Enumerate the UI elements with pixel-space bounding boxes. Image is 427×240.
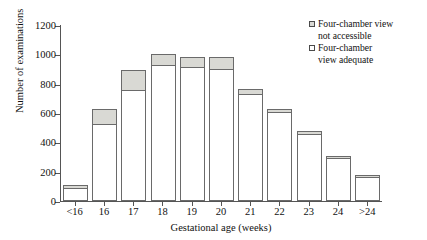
- y-axis-title: Number of examinations: [14, 9, 25, 113]
- legend-label: Four-chamber view not accessible: [318, 18, 393, 41]
- stacked-bar[interactable]: [63, 185, 88, 201]
- stacked-bar[interactable]: [238, 89, 263, 201]
- bar-segment-adequate: [326, 158, 351, 201]
- bar-segment-adequate: [209, 69, 234, 201]
- chart-legend: Four-chamber view not accessibleFour-cha…: [309, 18, 427, 66]
- y-tick-label: 200: [40, 167, 56, 178]
- y-tick-label: 1200: [35, 21, 56, 32]
- bar-segment-adequate: [297, 134, 322, 201]
- bar-segment-not-accessible: [92, 109, 117, 124]
- y-tick-label: 800: [40, 79, 56, 90]
- x-tick-label: 20: [216, 207, 227, 218]
- x-tick-label: 19: [186, 207, 197, 218]
- bar-segment-not-accessible: [180, 57, 205, 67]
- bar-segment-adequate: [92, 124, 117, 201]
- bar-slot: [61, 25, 90, 201]
- bar-slot: [265, 25, 294, 201]
- x-axis-title: Gestational age (weeks): [60, 222, 382, 233]
- bar-slot: [178, 25, 207, 201]
- x-tick-label: <16: [66, 207, 82, 218]
- bar-segment-not-accessible: [151, 54, 176, 66]
- x-tick-label: 16: [99, 207, 110, 218]
- bar-slot: [90, 25, 119, 201]
- bar-segment-not-accessible: [121, 70, 146, 89]
- stacked-bar[interactable]: [355, 175, 380, 201]
- bar-segment-adequate: [63, 188, 88, 201]
- bar-slot: [236, 25, 265, 201]
- stacked-bar[interactable]: [121, 70, 146, 201]
- bar-slot: [119, 25, 148, 201]
- stacked-bar[interactable]: [267, 109, 292, 201]
- x-tick-label: 21: [245, 207, 256, 218]
- stacked-bar[interactable]: [92, 109, 117, 201]
- x-tick-label: 18: [157, 207, 168, 218]
- legend-swatch-gray: [309, 21, 315, 27]
- bar-segment-adequate: [180, 67, 205, 201]
- legend-label: Four-chamber view adequate: [318, 42, 373, 65]
- bar-slot: [207, 25, 236, 201]
- x-tick-label: 23: [304, 207, 315, 218]
- bar-segment-adequate: [267, 112, 292, 201]
- bar-segment-adequate: [151, 65, 176, 201]
- legend-swatch-white: [309, 45, 315, 51]
- bar-segment-adequate: [355, 177, 380, 201]
- stacked-bar[interactable]: [209, 57, 234, 201]
- y-tick-label: 600: [40, 109, 56, 120]
- x-tick-label: 24: [333, 207, 344, 218]
- y-tick-label: 400: [40, 138, 56, 149]
- stacked-bar[interactable]: [151, 54, 176, 201]
- bar-segment-adequate: [238, 94, 263, 201]
- x-tick-label: 17: [128, 207, 139, 218]
- stacked-bar[interactable]: [297, 131, 322, 201]
- y-tick-label: 0: [51, 197, 56, 208]
- bar-slot: [149, 25, 178, 201]
- bar-segment-not-accessible: [209, 57, 234, 69]
- legend-item[interactable]: Four-chamber view not accessible: [309, 18, 427, 41]
- chart-figure: 020040060080010001200 Number of examinat…: [0, 0, 427, 240]
- x-tick-label: 22: [274, 207, 285, 218]
- legend-item[interactable]: Four-chamber view adequate: [309, 42, 427, 65]
- y-tick-label: 1000: [35, 50, 56, 61]
- bar-segment-adequate: [121, 90, 146, 201]
- stacked-bar[interactable]: [180, 57, 205, 201]
- stacked-bar[interactable]: [326, 156, 351, 201]
- x-tick-label: >24: [359, 207, 375, 218]
